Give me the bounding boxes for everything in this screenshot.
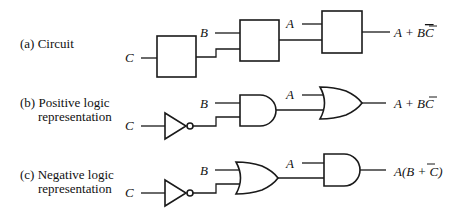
- caption-c-line2: representation: [38, 181, 112, 196]
- input-a-label: A: [285, 156, 294, 171]
- or-gate: [236, 162, 278, 194]
- output-expression-b: A + BC: [393, 96, 434, 111]
- input-b-label: B: [200, 163, 208, 178]
- row-c-negative-logic: (c) Negative logic representation C B A …: [20, 154, 443, 206]
- inversion-bubble: [187, 123, 193, 129]
- input-b-label: B: [200, 25, 208, 40]
- caption-c-line1: (c) Negative logic: [20, 167, 114, 182]
- and-gate: [324, 154, 360, 186]
- caption-a: (a) Circuit: [20, 36, 74, 51]
- input-c-label: C: [125, 50, 134, 65]
- row-a-circuit: (a) Circuit C B A A + BC: [20, 11, 437, 77]
- caption-b-line2: representation: [38, 109, 112, 124]
- inverter-gate: [165, 180, 186, 206]
- caption-b-line1: (b) Positive logic: [20, 95, 110, 110]
- input-c-label: C: [125, 185, 134, 200]
- inverter-gate: [165, 113, 186, 139]
- input-a-label: A: [285, 87, 294, 102]
- logic-diagram: (a) Circuit C B A A + BC (b) Positive lo…: [0, 0, 454, 220]
- input-b-label: B: [200, 96, 208, 111]
- box-gate-2: [240, 20, 279, 61]
- input-a-label: A: [285, 16, 294, 31]
- input-c-label: C: [125, 118, 134, 133]
- inversion-bubble: [187, 190, 193, 196]
- output-expression-c: A(B + C): [393, 164, 443, 179]
- box-gate-1: [157, 36, 196, 77]
- and-gate: [240, 95, 276, 126]
- box-gate-3: [322, 11, 362, 53]
- or-gate: [320, 87, 362, 119]
- row-b-positive-logic: (b) Positive logic representation C B A …: [20, 87, 437, 139]
- output-expression-a: A + BC: [393, 25, 434, 40]
